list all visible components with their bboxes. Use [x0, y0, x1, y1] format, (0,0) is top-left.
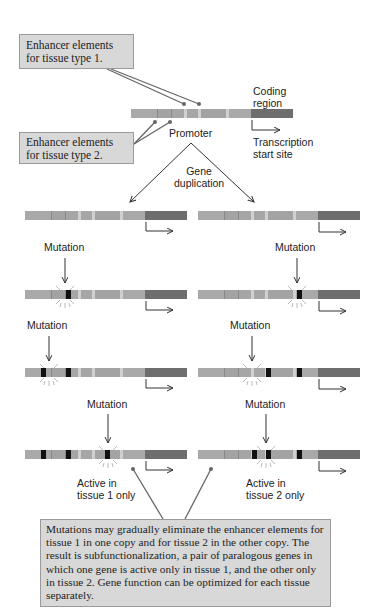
enhancer-segment	[254, 211, 265, 220]
enhancer-segment	[52, 290, 65, 299]
mutation-label: Mutation	[87, 398, 127, 410]
mutation-mark	[266, 368, 271, 377]
mutation-label: Mutation	[275, 241, 315, 253]
tss-arrows-rows	[146, 222, 346, 471]
tss-arrow-icon	[252, 120, 280, 130]
enhancer-segment	[52, 450, 65, 459]
enhancer-segment	[198, 211, 224, 220]
enhancer-segment	[123, 211, 145, 220]
coding-region	[145, 290, 187, 299]
coding-region-label: Coding region	[253, 85, 303, 109]
enhancer-segment	[158, 109, 171, 118]
mutation-mark	[66, 450, 71, 459]
gene-duplication-label: Gene duplication	[174, 165, 224, 189]
mutation-mark	[266, 450, 271, 459]
enhancer-segment	[52, 368, 65, 377]
enhancer-segment	[254, 368, 265, 377]
mutation-label: Mutation	[27, 319, 67, 331]
mutation-mark	[41, 368, 46, 377]
enhancer-segment	[268, 211, 293, 220]
enhancer-segment	[268, 368, 293, 377]
mutation-mark	[252, 450, 257, 459]
mutation-label: Mutation	[245, 398, 285, 410]
enhancer-segment	[81, 450, 92, 459]
gene-copy-left	[25, 450, 187, 459]
enhancer-segment	[95, 211, 120, 220]
enhancer-segment	[225, 211, 238, 220]
coding-region	[318, 450, 360, 459]
enhancer-segment	[123, 450, 145, 459]
enhancer-segment	[81, 211, 92, 220]
coding-region	[318, 368, 360, 377]
callout-tissue1-enhancers: Enhancer elements for tissue type 1.	[19, 34, 134, 69]
coding-region	[145, 450, 187, 459]
enhancer-segment	[225, 290, 238, 299]
tissue2-leader-lines	[134, 120, 172, 144]
enhancer-segment	[25, 450, 51, 459]
mutation-mark	[66, 290, 71, 299]
enhancer-segment	[81, 368, 92, 377]
enhancer-segment	[25, 211, 51, 220]
enhancer-segment	[52, 211, 65, 220]
enhancer-segment	[95, 368, 120, 377]
enhancer-segment	[229, 109, 251, 118]
enhancer-segment	[95, 290, 120, 299]
callout-tissue2-enhancers: Enhancer elements for tissue type 2.	[19, 132, 134, 164]
mutation-mark	[297, 368, 302, 377]
enhancer-segment	[225, 450, 238, 459]
enhancer-segment	[268, 290, 293, 299]
active-tissue1-label: Active in tissue 1 only	[77, 477, 142, 501]
enhancer-segment	[225, 368, 238, 377]
enhancer-segment	[268, 450, 293, 459]
callout-summary: Mutations may gradually eliminate the en…	[40, 519, 331, 607]
mutation-mark	[105, 450, 110, 459]
enhancer-segment	[187, 109, 198, 118]
coding-region	[145, 368, 187, 377]
mutation-starbursts	[37, 286, 309, 468]
enhancer-segment	[198, 450, 224, 459]
coding-region	[318, 290, 360, 299]
active-tissue2-label: Active in tissue 2 only	[246, 477, 311, 501]
coding-region	[318, 211, 360, 220]
gene-copy-left	[25, 290, 187, 299]
original-gene	[131, 109, 293, 118]
coding-region	[145, 211, 187, 220]
tissue1-leader-lines	[107, 69, 201, 106]
enhancer-segment	[239, 368, 251, 377]
enhancer-segment	[198, 368, 224, 377]
gene-copy-right	[198, 450, 360, 459]
gene-copy-left	[25, 211, 187, 220]
promoter-label: Promoter	[169, 127, 212, 139]
mutation-label: Mutation	[44, 241, 84, 253]
enhancer-segment	[81, 290, 92, 299]
enhancer-segment	[25, 290, 51, 299]
enhancer-segment	[25, 368, 51, 377]
gene-copy-left	[25, 368, 187, 377]
enhancer-segment	[239, 450, 251, 459]
enhancer-segment	[201, 109, 226, 118]
enhancer-segment	[172, 109, 184, 118]
enhancer-segment	[123, 290, 145, 299]
summary-leader-lines	[131, 467, 213, 519]
mutation-mark	[66, 368, 71, 377]
enhancer-segment	[296, 211, 318, 220]
mutation-mark	[297, 290, 302, 299]
enhancer-segment	[254, 290, 265, 299]
transcription-start-label: Transcription start site	[253, 136, 328, 160]
mutation-mark	[297, 450, 302, 459]
enhancer-segment	[239, 211, 251, 220]
enhancer-segment	[198, 290, 224, 299]
gene-copy-right	[198, 211, 360, 220]
mutation-label: Mutation	[230, 319, 270, 331]
enhancer-segment	[239, 290, 251, 299]
mutation-arrows	[49, 258, 297, 443]
gene-copy-right	[198, 368, 360, 377]
gene-copy-right	[198, 290, 360, 299]
enhancer-segment	[66, 211, 78, 220]
coding-region	[251, 109, 293, 118]
mutation-mark	[41, 450, 46, 459]
enhancer-segment	[131, 109, 157, 118]
enhancer-segment	[123, 368, 145, 377]
